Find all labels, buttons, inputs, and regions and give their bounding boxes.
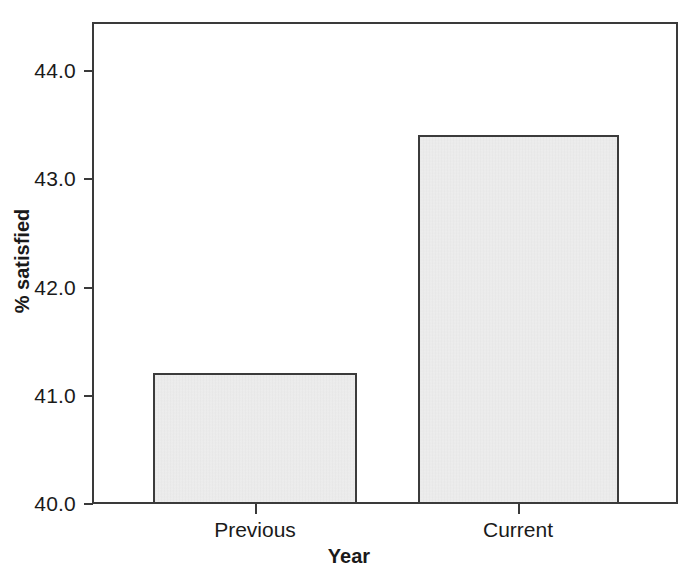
y-tick-label-44: 44.0 [6,60,76,81]
y-tick-label-40: 40.0 [6,493,76,514]
bar-chart: 40.0 41.0 42.0 43.0 44.0 Previous Curren… [0,0,698,574]
x-tick-label-previous: Previous [140,518,370,542]
y-tick-label-41: 41.0 [6,385,76,406]
y-axis-title: % satisfied [11,181,33,341]
y-tick-mark-42 [84,287,93,289]
x-tick-label-current: Current [403,518,633,542]
bar-current [418,135,619,504]
x-tick-mark-current [518,504,520,514]
x-axis-title: Year [0,545,698,567]
bar-previous [153,373,357,504]
y-tick-mark-43 [84,178,93,180]
y-tick-mark-44 [84,70,93,72]
y-tick-mark-41 [84,395,93,397]
x-tick-mark-previous [255,504,257,514]
y-tick-mark-40 [84,503,93,505]
